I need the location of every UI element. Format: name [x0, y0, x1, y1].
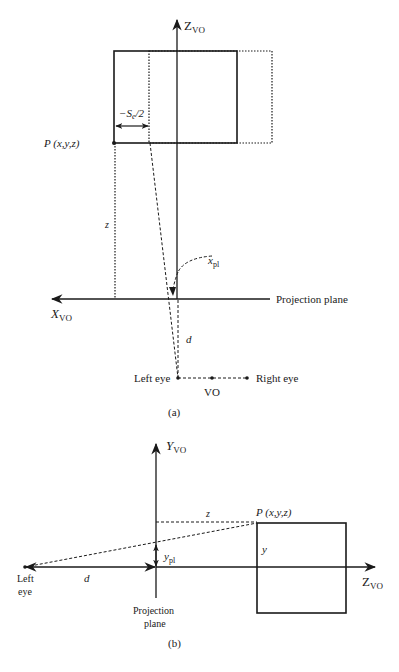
sight-line-b — [25, 523, 257, 567]
left-eye-label: Left eye — [134, 372, 170, 384]
right-eye-point — [245, 376, 249, 380]
y-axis-label: YVO — [166, 438, 187, 455]
caption-a: (a) — [168, 406, 181, 419]
x-axis-label: XVO — [50, 306, 72, 323]
left-eye-point — [176, 376, 180, 380]
vo-point — [210, 376, 214, 380]
offset-label: −Se/2 — [119, 107, 145, 121]
point-p-label-b: P (x,y,z) — [255, 506, 292, 519]
y-label-b: y — [261, 543, 267, 555]
panel-a: ZVO XVO Projection plane −Se/2 P (x,y,z)… — [43, 18, 348, 419]
right-eye-label: Right eye — [256, 372, 299, 384]
sight-line-left — [150, 143, 178, 378]
offset-dashed-box — [149, 51, 272, 143]
left-eye-label-line1: Left — [17, 573, 34, 584]
xpl-leader — [178, 256, 212, 272]
projection-plane-line2: plane — [144, 618, 166, 629]
d-label-b: d — [84, 572, 90, 584]
object-box-b — [257, 523, 346, 613]
xpl-label: xpl — [207, 254, 220, 269]
caption-b: (b) — [168, 637, 181, 650]
d-label: d — [186, 333, 192, 345]
panel-b: YVO ZVO d Left eye z ypl P (x,y,z) y Pro… — [17, 438, 383, 650]
projection-plane-label: Projection plane — [276, 293, 348, 305]
projection-plane-line1: Projection — [133, 605, 174, 616]
vo-label: VO — [204, 386, 220, 398]
stereo-projection-diagram: ZVO XVO Projection plane −Se/2 P (x,y,z)… — [0, 0, 399, 672]
point-p-label: P (x,y,z) — [43, 137, 80, 150]
object-box — [114, 51, 237, 143]
xpl-arrowhead — [169, 287, 176, 296]
z-distance-label: z — [104, 219, 109, 230]
z-label-b: z — [205, 508, 210, 519]
z-axis-b-label: ZVO — [362, 574, 383, 591]
ypl-label: ypl — [163, 550, 176, 565]
z-axis-label: ZVO — [184, 18, 205, 35]
left-eye-label-line2: eye — [18, 586, 32, 597]
